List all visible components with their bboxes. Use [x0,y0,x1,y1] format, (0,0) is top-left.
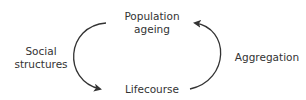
edge-label-social-structures: Social structures [12,45,70,71]
edge-line: Social [12,45,70,58]
node-population-ageing: Population ageing [118,10,186,36]
node-line: ageing [118,23,186,36]
node-line: Population [118,10,186,23]
right-arrow [190,23,221,89]
edge-label-aggregation: Aggregation [232,51,302,64]
node-lifecourse: Lifecourse [118,83,186,96]
edge-line: structures [12,58,70,71]
left-arrow [74,23,106,89]
